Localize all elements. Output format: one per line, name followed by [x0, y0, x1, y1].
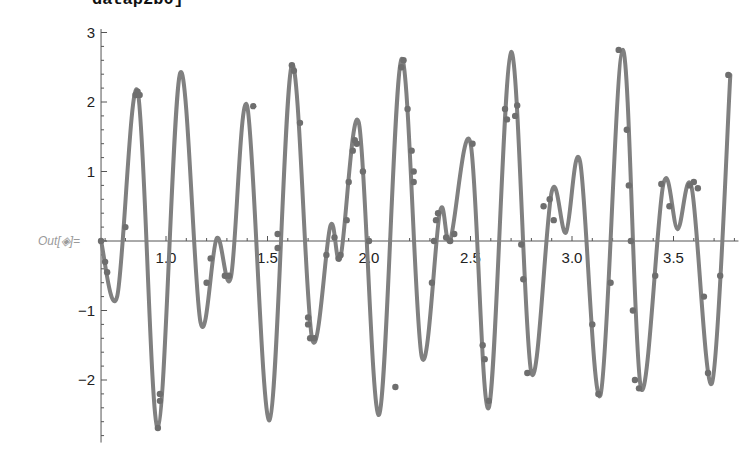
data-point	[350, 147, 356, 153]
data-point	[447, 238, 453, 244]
data-point	[410, 168, 416, 174]
y-tick-label: 3	[87, 24, 95, 41]
data-point	[658, 181, 664, 187]
y-tick-label: −1	[78, 302, 95, 319]
data-point	[431, 238, 437, 244]
data-point	[337, 252, 343, 258]
data-point	[305, 314, 311, 320]
data-point	[551, 217, 557, 223]
y-tick-label: 2	[87, 93, 95, 110]
data-point	[122, 224, 128, 230]
data-point	[435, 210, 441, 216]
data-point	[482, 356, 488, 362]
data-point	[136, 92, 142, 98]
data-point	[323, 252, 329, 258]
data-point	[289, 62, 295, 68]
data-point	[524, 370, 530, 376]
data-point	[360, 168, 366, 174]
data-point	[666, 203, 672, 209]
data-point	[250, 103, 256, 109]
data-point	[479, 342, 485, 348]
data-point	[400, 57, 406, 63]
y-tick-label: 1	[87, 163, 95, 180]
data-point	[514, 102, 520, 108]
x-tick-label: 1.5	[257, 249, 278, 266]
data-point	[589, 321, 595, 327]
data-point	[410, 179, 416, 185]
data-point	[701, 293, 707, 299]
data-point	[705, 370, 711, 376]
data-point	[595, 391, 601, 397]
data-point	[343, 217, 349, 223]
data-point	[502, 106, 508, 112]
data-point	[98, 238, 104, 244]
data-point	[408, 147, 414, 153]
data-point	[652, 273, 658, 279]
data-point	[695, 185, 701, 191]
y-tick-label: −2	[78, 371, 95, 388]
data-point	[311, 335, 317, 341]
data-point	[433, 217, 439, 223]
data-point	[207, 255, 213, 261]
data-point	[157, 391, 163, 397]
data-point	[366, 238, 372, 244]
plot-area: 1.01.52.02.53.03.5321−1−2	[0, 0, 752, 454]
data-point	[305, 321, 311, 327]
data-point	[398, 64, 404, 70]
data-point	[104, 269, 110, 275]
data-point	[512, 113, 518, 119]
data-point	[607, 280, 613, 286]
data-point	[630, 307, 636, 313]
data-point	[626, 182, 632, 188]
data-point	[628, 238, 634, 244]
data-point	[632, 377, 638, 383]
x-tick-label: 3.0	[562, 249, 583, 266]
data-point	[226, 273, 232, 279]
data-point	[157, 398, 163, 404]
data-point	[274, 231, 280, 237]
data-point	[392, 384, 398, 390]
data-point	[469, 141, 475, 147]
data-point	[520, 276, 526, 282]
data-point	[546, 196, 552, 202]
data-point	[518, 241, 524, 247]
data-point	[504, 116, 510, 122]
data-point	[203, 280, 209, 286]
data-point	[725, 72, 731, 78]
x-tick-label: 1.0	[156, 249, 177, 266]
data-point	[451, 231, 457, 237]
data-point	[717, 273, 723, 279]
data-point	[636, 385, 642, 391]
data-point	[540, 203, 546, 209]
x-tick-label: 3.5	[663, 249, 684, 266]
data-point	[155, 425, 161, 431]
data-point	[291, 68, 297, 74]
data-point	[691, 179, 697, 185]
data-point	[102, 259, 108, 265]
data-point	[274, 245, 280, 251]
data-point	[486, 398, 492, 404]
data-point	[354, 141, 360, 147]
data-point	[429, 280, 435, 286]
data-point	[404, 106, 410, 112]
data-point	[346, 179, 352, 185]
data-point	[624, 127, 630, 133]
data-point	[297, 120, 303, 126]
data-point	[615, 47, 621, 53]
curve-line	[101, 50, 730, 428]
data-point	[331, 234, 337, 240]
